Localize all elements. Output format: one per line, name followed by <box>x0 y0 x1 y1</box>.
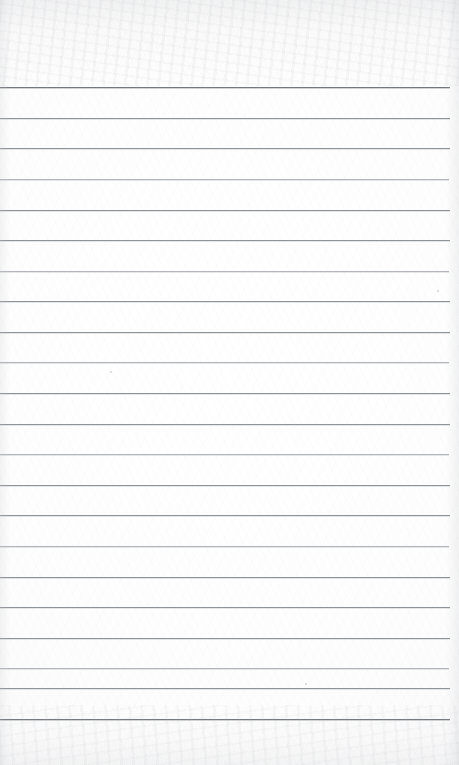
scan-noise-bottom <box>0 705 459 765</box>
rule-line <box>0 148 450 149</box>
page-edge-left <box>0 0 10 765</box>
rule-line <box>0 638 450 639</box>
rule-line <box>0 362 449 363</box>
scan-speck <box>437 290 439 292</box>
ruled-lines-layer <box>0 0 459 765</box>
rule-line <box>0 515 450 516</box>
rule-line <box>0 485 450 486</box>
rule-line <box>0 179 449 180</box>
rule-line <box>0 271 449 272</box>
rule-line <box>0 210 450 211</box>
rule-line <box>0 301 450 302</box>
scan-noise-top <box>0 0 459 86</box>
rule-line <box>0 577 450 578</box>
scan-speck <box>305 683 307 685</box>
rule-line <box>0 240 450 241</box>
rule-line <box>0 332 450 333</box>
rule-line <box>0 118 450 119</box>
rule-line <box>0 454 449 455</box>
rule-line <box>0 546 449 547</box>
scanned-page <box>0 0 459 765</box>
rule-line <box>0 424 450 425</box>
rule-line <box>0 668 449 669</box>
page-edge-right <box>446 0 459 765</box>
rule-line <box>0 87 450 88</box>
rule-line <box>0 688 450 689</box>
rule-line <box>0 607 450 608</box>
rule-line <box>0 393 450 394</box>
scan-speck <box>110 371 112 373</box>
